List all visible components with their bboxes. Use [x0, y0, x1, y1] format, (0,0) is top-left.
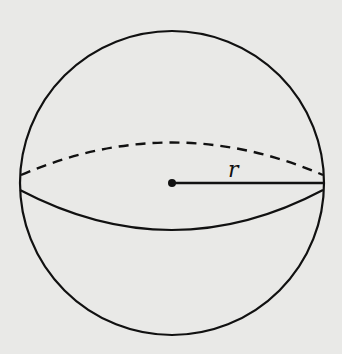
center-point [168, 179, 176, 187]
radius-label: r [228, 157, 240, 182]
diagram-canvas: r [0, 0, 342, 354]
equator-front-solid [20, 190, 323, 230]
sphere-diagram: r [0, 0, 342, 354]
equator-back-dashed [21, 143, 323, 176]
